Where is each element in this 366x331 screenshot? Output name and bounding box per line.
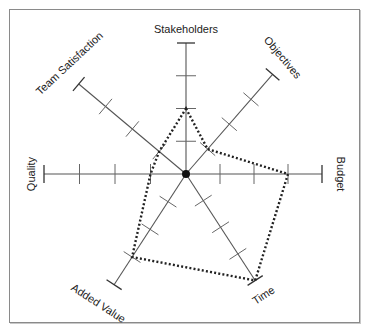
axis-end-cap: [248, 276, 263, 286]
axis-tick: [160, 196, 177, 207]
radar-chart: StakeholdersObjectivesBudgetTimeAdded Va…: [0, 0, 366, 331]
axis-tick: [99, 99, 112, 114]
axis-end-cap: [73, 77, 85, 91]
radar-axes: [44, 43, 322, 290]
axis-label-quality: Quality: [25, 156, 37, 191]
axis-end-cap: [107, 280, 122, 290]
axis-label-stakeholders: Stakeholders: [154, 23, 219, 35]
axis-tick: [222, 118, 237, 131]
axis-label-team-satisfaction: Team Satisfaction: [33, 29, 105, 97]
axis-tick: [243, 93, 258, 106]
axis-tick: [126, 121, 139, 136]
axis-label-time: Time: [250, 284, 277, 307]
axis-label-budget: Budget: [335, 157, 347, 192]
axis-tick: [229, 248, 246, 259]
axis-end-cap: [266, 68, 280, 80]
axis-tick: [212, 222, 229, 233]
axis-tick: [195, 195, 212, 206]
axis-label-objectives: Objectives: [262, 34, 305, 81]
axis-tick: [142, 224, 159, 235]
axis-tick: [200, 143, 215, 156]
series-polygon: [132, 109, 288, 281]
center-marker: [182, 170, 190, 178]
